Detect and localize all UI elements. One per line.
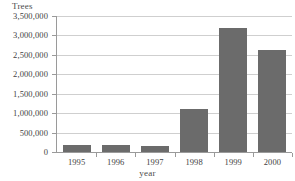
x-tick-mark: [175, 153, 176, 157]
x-tick-label: 1998: [185, 157, 202, 167]
y-tick-label: 3,000,000: [13, 30, 48, 40]
y-tick-label: 3,500,000: [13, 11, 48, 21]
x-tick-label: 2000: [264, 157, 281, 167]
y-tick-label: 2,000,000: [13, 69, 48, 79]
x-tick-label: 1995: [68, 157, 85, 167]
x-tick-mark: [292, 153, 293, 157]
x-tick-label: 1999: [225, 157, 242, 167]
bars-group: [57, 16, 292, 152]
bar: [102, 145, 130, 152]
y-tick-label: 500,000: [20, 128, 48, 138]
y-axis-title: Trees: [12, 1, 33, 11]
x-axis-title: year: [0, 168, 295, 178]
x-tick-mark: [96, 153, 97, 157]
y-tick-label: 0: [44, 147, 48, 157]
bar-chart: Trees 3,500,0003,000,0002,500,0002,000,0…: [0, 0, 295, 181]
bar: [258, 50, 286, 152]
bar: [141, 146, 169, 152]
bar: [63, 145, 91, 152]
x-tick-label: 1996: [107, 157, 124, 167]
y-tick-label: 2,500,000: [13, 50, 48, 60]
x-tick-mark: [135, 153, 136, 157]
bar: [219, 28, 247, 152]
x-tick-mark: [214, 153, 215, 157]
y-tick-label: 1,000,000: [13, 108, 48, 118]
x-tick-label: 1997: [146, 157, 163, 167]
x-tick-mark: [253, 153, 254, 157]
bar: [180, 109, 208, 152]
y-tick-label: 1,500,000: [13, 89, 48, 99]
y-tick-mark: [52, 152, 57, 153]
